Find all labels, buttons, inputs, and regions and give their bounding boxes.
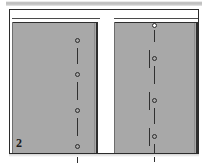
right-panel-centerline-tick-2: [149, 128, 150, 146]
right-panel-centerline-pin-1: [152, 56, 157, 61]
left-panel: [12, 22, 98, 153]
right-panel: [114, 22, 198, 153]
right-panel-edge-right: [196, 22, 198, 153]
left-panel-centerline-pin-3: [75, 144, 80, 149]
drawing-frame: 2: [9, 9, 199, 154]
left-panel-edge-left: [12, 22, 13, 153]
right-panel-centerline-tick-0: [149, 50, 150, 68]
frame-bottom-shadow: [9, 154, 199, 157]
left-panel-centerline-dash-0: [77, 48, 78, 64]
left-panel-centerline-dash-1: [77, 82, 78, 100]
right-panel-centerline-pin-3: [152, 134, 157, 139]
panel-reveal-line: [114, 18, 198, 19]
right-panel-centerline-tick-1: [149, 92, 150, 110]
left-panel-centerline-dash-2: [77, 118, 78, 136]
left-panel-edge-inner-right: [94, 23, 95, 153]
right-panel-centerline-dash-2: [154, 108, 155, 124]
right-panel-centerline-pin-0: [152, 23, 157, 28]
figure-number-label: 2: [16, 137, 22, 149]
left-panel-centerline-pin-1: [75, 72, 80, 77]
right-panel-centerline-dash-0: [154, 30, 155, 42]
right-panel-centerline-dash-3: [154, 144, 155, 162]
right-panel-edge-left: [114, 22, 115, 153]
left-panel-centerline-pin-2: [75, 108, 80, 113]
left-panel-edge-right: [96, 22, 98, 153]
figure-container: 2: [0, 0, 208, 163]
right-panel-centerline: [154, 10, 155, 153]
right-panel-edge-inner-right: [194, 23, 195, 153]
left-panel-centerline: [77, 10, 78, 153]
left-panel-edge-top: [12, 22, 98, 23]
panel-reveal-line: [12, 18, 100, 19]
left-panel-centerline-pin-0: [75, 38, 80, 43]
right-panel-centerline-pin-2: [152, 98, 157, 103]
scan-banner-bar: [6, 1, 202, 6]
right-panel-centerline-dash-1: [154, 66, 155, 84]
